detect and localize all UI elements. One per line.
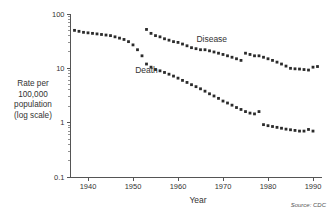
data-point [258, 110, 261, 113]
data-point [262, 123, 265, 126]
data-point [231, 104, 234, 107]
data-point [267, 57, 270, 60]
data-point [163, 37, 166, 40]
data-point [226, 54, 229, 57]
series-label-disease: Disease [196, 34, 227, 44]
data-point [262, 56, 265, 59]
data-point [213, 95, 216, 98]
data-point [231, 56, 234, 59]
data-point [271, 125, 274, 128]
data-point [150, 32, 153, 35]
y-axis-title-line: (log scale) [14, 111, 52, 120]
y-axis-title-line: population [14, 100, 52, 109]
data-point [195, 47, 198, 50]
data-point [186, 81, 189, 84]
data-point [222, 100, 225, 103]
data-point [177, 41, 180, 44]
x-tick-label: 1980 [260, 182, 277, 191]
x-tick-label: 1950 [125, 182, 142, 191]
data-point [244, 110, 247, 113]
rate-per-100000-log-chart: 1001010.1 194019501960197019801990 Disea… [0, 0, 331, 213]
data-point [280, 127, 283, 130]
data-point [91, 32, 94, 35]
x-tick-label: 1940 [80, 182, 97, 191]
data-point [240, 108, 243, 111]
data-point [208, 49, 211, 52]
data-point [168, 73, 171, 76]
data-point [271, 59, 274, 62]
data-point [100, 33, 103, 36]
data-point [172, 75, 175, 78]
data-point [181, 79, 184, 82]
x-axis-title-text: Year [189, 195, 206, 205]
data-point [235, 57, 238, 60]
data-point [249, 112, 252, 115]
y-tick-label: 100 [52, 10, 65, 19]
data-point [285, 65, 288, 68]
data-point [312, 130, 315, 133]
data-point [190, 46, 193, 49]
data-point [267, 124, 270, 127]
data-point [118, 37, 121, 40]
data-point [276, 61, 279, 64]
data-point [258, 54, 261, 57]
data-point [168, 39, 171, 42]
data-point [141, 54, 144, 57]
data-point [172, 40, 175, 43]
data-point [253, 54, 256, 57]
data-point [82, 31, 85, 34]
data-point [190, 83, 193, 86]
data-point [249, 53, 252, 56]
x-tick-label: 1990 [305, 182, 322, 191]
data-point [96, 33, 99, 36]
data-point [109, 34, 112, 37]
y-tick-label: 10 [56, 64, 64, 73]
data-point [204, 90, 207, 93]
data-point [316, 65, 319, 68]
data-point [307, 128, 310, 131]
data-point [217, 97, 220, 100]
data-point [136, 48, 139, 51]
x-tick-label: 1970 [215, 182, 232, 191]
data-point [298, 130, 301, 133]
data-point [280, 63, 283, 66]
chart-container: 1001010.1 194019501960197019801990 Disea… [0, 0, 331, 213]
data-point [235, 106, 238, 109]
data-point [298, 68, 301, 71]
data-point [307, 69, 310, 72]
data-point [199, 87, 202, 90]
data-point [127, 40, 130, 43]
data-point [217, 52, 220, 55]
data-point [213, 51, 216, 54]
data-point [159, 69, 162, 72]
data-point [244, 52, 247, 55]
data-point [199, 48, 202, 51]
data-point [177, 77, 180, 80]
data-point [294, 67, 297, 70]
data-point [78, 30, 81, 33]
data-point [132, 44, 135, 47]
source-note: Source: CDC [291, 202, 327, 208]
data-point [294, 129, 297, 132]
y-tick-label: 1 [60, 118, 64, 127]
data-point [303, 68, 306, 71]
data-point [114, 35, 117, 38]
data-point [285, 128, 288, 131]
data-point [87, 31, 90, 34]
data-point [253, 113, 256, 116]
y-axis-title: Rate per100,000population(log scale) [14, 79, 52, 120]
data-point [73, 29, 76, 32]
data-point [186, 44, 189, 47]
data-point [312, 66, 315, 69]
data-point [181, 43, 184, 46]
y-axis-title-line: 100,000 [18, 90, 48, 99]
data-point [123, 38, 126, 41]
series-label-death: Death [135, 65, 158, 75]
data-point [289, 128, 292, 131]
data-point [105, 34, 108, 37]
data-point [222, 53, 225, 56]
data-point [204, 48, 207, 51]
y-axis-title-line: Rate per [17, 79, 49, 88]
data-point [208, 92, 211, 95]
data-point [289, 67, 292, 70]
